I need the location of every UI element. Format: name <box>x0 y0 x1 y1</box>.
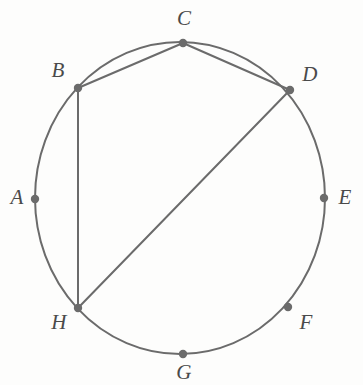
point-a-label: A <box>8 185 23 209</box>
chord-bc <box>78 43 183 88</box>
point-d-label: D <box>301 62 317 86</box>
point-g-dot <box>179 350 187 358</box>
point-b-dot <box>74 84 82 92</box>
point-h-dot <box>74 304 82 312</box>
point-g-label: G <box>176 360 191 384</box>
point-e-dot <box>320 194 328 202</box>
point-h-label: H <box>50 310 68 334</box>
vertex-label-group: A B C D E F G H <box>8 6 351 384</box>
point-c-label: C <box>177 6 192 30</box>
chord-group <box>78 43 290 308</box>
point-a-dot <box>31 195 39 203</box>
point-f-label: F <box>298 310 312 334</box>
point-f-dot <box>284 303 292 311</box>
diagram-canvas: A B C D E F G H <box>0 0 363 385</box>
point-b-label: B <box>51 58 64 82</box>
geometry-figure: A B C D E F G H <box>0 0 363 385</box>
chord-cd <box>183 43 290 90</box>
chord-dh <box>78 90 290 308</box>
point-e-label: E <box>337 185 351 209</box>
point-d-dot <box>286 86 294 94</box>
point-c-dot <box>179 39 187 47</box>
